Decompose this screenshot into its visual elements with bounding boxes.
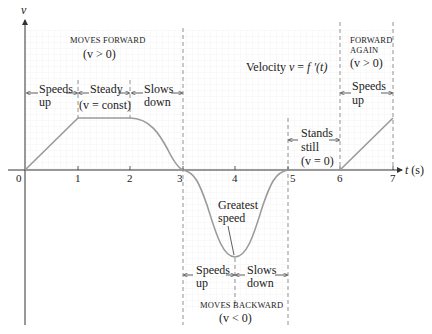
forward-again-label: FORWARD — [350, 35, 393, 45]
speeds-up-label-3: Speeds — [352, 79, 386, 93]
moves-backward-label: MOVES BACKWARD — [200, 300, 283, 310]
tick-5: 5 — [290, 172, 296, 184]
forward-again-label-b: AGAIN — [350, 45, 378, 55]
tick-1: 1 — [75, 172, 81, 184]
chart-title: Velocity v = f ′(t) — [246, 60, 327, 74]
speeds-up-label-3b: up — [352, 93, 364, 107]
stands-still-label-b: still — [301, 140, 320, 154]
moves-backward-condition: (v < 0) — [219, 311, 252, 325]
greatest-speed-label-b: speed — [218, 211, 245, 225]
steady-condition: (v = const) — [79, 98, 131, 112]
speeds-up-label-2b: up — [196, 276, 208, 290]
slows-down-label-2: Slows — [247, 263, 277, 277]
stands-still-condition: (v = 0) — [301, 154, 334, 168]
tick-0: 0 — [16, 172, 22, 184]
speeds-up-label-1b: up — [39, 95, 51, 109]
velocity-chart: 0 1 2 3 4 5 6 7 v t (s) Velocity v = f ′… — [0, 0, 432, 334]
tick-4: 4 — [232, 172, 238, 184]
tick-3: 3 — [177, 172, 183, 184]
moves-forward-condition: (v > 0) — [83, 47, 116, 61]
x-axis-label: t (s) — [405, 163, 424, 177]
speeds-up-label-2: Speeds — [196, 263, 230, 277]
moves-forward-label: MOVES FORWARD — [70, 35, 146, 45]
tick-7: 7 — [390, 172, 396, 184]
slows-down-label-2b: down — [247, 276, 274, 290]
slows-down-label-1: Slows — [144, 82, 174, 96]
tick-2: 2 — [127, 172, 133, 184]
speeds-up-label-1: Speeds — [39, 82, 73, 96]
slows-down-label-1b: down — [144, 95, 171, 109]
y-axis-label: v — [21, 3, 27, 17]
tick-6: 6 — [337, 172, 343, 184]
forward-again-condition: (v > 0) — [350, 56, 383, 70]
steady-label: Steady — [90, 82, 123, 96]
greatest-speed-label: Greatest — [218, 198, 259, 212]
stands-still-label: Stands — [301, 126, 333, 140]
